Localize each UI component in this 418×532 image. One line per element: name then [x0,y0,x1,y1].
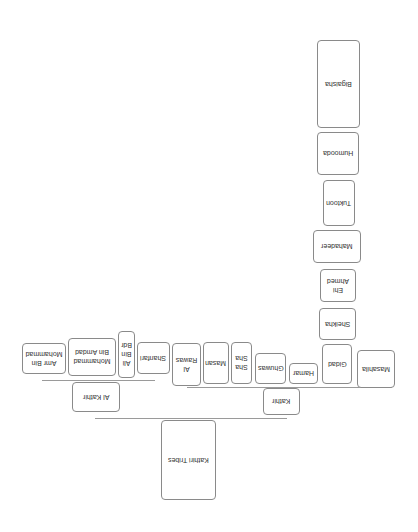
node-masahila[interactable]: Masahila [357,350,395,388]
al-kathir-connector [42,380,155,381]
node-kathiri-tribes[interactable]: Kathiri Tribes [161,420,216,500]
node-label: Tuktoon [325,198,352,209]
node-label: Gidad [327,359,348,370]
node-label: Ali Bin Bdr [119,340,134,369]
node-label: Kathir [271,396,291,407]
node-label: Al Kathir [82,392,110,403]
node-al-rawas[interactable]: Al Rawas [172,343,201,386]
root-connector [95,418,287,419]
node-label: Bigaisha [324,79,353,90]
node-label: Amr Bin Mohammad [23,349,65,369]
node-label: Al Rawas [173,355,200,375]
node-bigaisha[interactable]: Bigaisha [317,40,360,128]
node-masan[interactable]: Masan [203,342,229,384]
node-kathir[interactable]: Kathir [263,388,300,415]
node-label: Humooda [322,148,354,159]
node-label: Hamar [292,368,315,379]
node-tuktoon[interactable]: Tuktoon [323,180,355,226]
node-label: Masahila [361,364,391,375]
node-label: Ehi Ahmed [321,276,355,296]
node-label: Ghuwas [257,363,285,374]
node-label: Masan [204,358,227,369]
node-label: Mahadeer [320,241,354,252]
node-ali-bin-bdr[interactable]: Ali Bin Bdr [118,331,135,378]
node-label: Shanfari [139,353,167,364]
node-label: Sheikha [324,319,351,330]
node-al-kathir[interactable]: Al Kathir [72,382,120,412]
node-hamar[interactable]: Hamar [289,363,318,384]
node-label: Mohammad Bin Amdad [69,347,115,367]
node-sha-sha[interactable]: Sha Sha [231,342,252,384]
node-label: Sha Sha [232,353,251,373]
node-ehi-ahmed[interactable]: Ehi Ahmed [320,269,356,302]
node-amr-bin-mohammad[interactable]: Amr Bin Mohammad [22,343,66,374]
node-ghuwas[interactable]: Ghuwas [255,353,286,384]
tree-diagram: Kathiri Tribes Al Kathir Kathir Amr Bin … [0,0,418,532]
node-gidad[interactable]: Gidad [322,344,352,384]
node-label: Kathiri Tribes [167,455,210,466]
node-mohammad-bin-amdad[interactable]: Mohammad Bin Amdad [68,338,116,376]
node-mahadeer[interactable]: Mahadeer [313,230,361,263]
node-shanfari[interactable]: Shanfari [137,342,170,374]
node-sheikha[interactable]: Sheikha [319,308,356,340]
node-humooda[interactable]: Humooda [317,132,359,175]
